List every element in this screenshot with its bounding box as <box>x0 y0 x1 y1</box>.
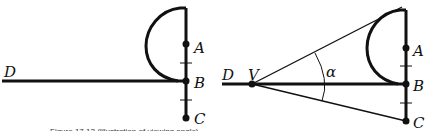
label-b: B <box>193 74 205 92</box>
point-b <box>403 81 410 88</box>
sight-line-lower <box>252 84 406 121</box>
semicircle <box>146 8 186 81</box>
label-a: A <box>411 42 424 60</box>
label-a: A <box>192 39 205 57</box>
point-a <box>403 45 410 52</box>
caption-text: Figure 17.13 (Illustration of viewing an… <box>50 127 199 131</box>
left-figure: D A B C <box>2 8 206 128</box>
point-c <box>403 118 410 125</box>
label-alpha: α <box>326 63 336 81</box>
point-b <box>183 78 190 85</box>
label-c: C <box>194 110 206 128</box>
label-b: B <box>412 77 424 95</box>
point-c <box>183 115 190 122</box>
semicircle <box>367 10 406 84</box>
point-a <box>183 41 190 48</box>
label-d: D <box>3 63 16 81</box>
caption: Figure 17.13 (Illustration of viewing an… <box>50 127 199 131</box>
label-d: D <box>221 66 234 84</box>
right-figure: D V α A B C <box>221 7 425 131</box>
diagram-canvas: D A B C D V α A B C Figure 17.13 (Illust… <box>0 0 425 131</box>
angle-arc <box>315 53 325 101</box>
label-v: V <box>248 66 261 84</box>
label-c: C <box>413 114 425 131</box>
